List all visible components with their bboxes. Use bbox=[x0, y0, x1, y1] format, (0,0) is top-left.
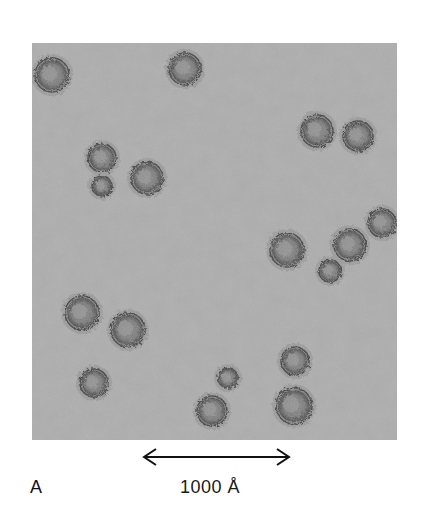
electron-micrograph bbox=[32, 43, 397, 440]
scale-bar-arrow bbox=[142, 447, 291, 467]
panel-label: A bbox=[30, 477, 42, 498]
scale-bar-label: 1000 Å bbox=[180, 477, 240, 498]
micrograph-image bbox=[32, 43, 397, 440]
